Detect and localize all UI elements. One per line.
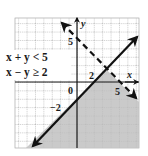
inequality-1-label: x + y < 5: [6, 51, 48, 64]
x-axis-label: x: [126, 69, 132, 80]
x-tick-2: 2: [89, 70, 94, 81]
y-axis-label: y: [80, 18, 86, 29]
x-tick-5: 5: [115, 86, 120, 97]
y-tick-5: 5: [68, 36, 73, 47]
inequality-2-label: x − y ≥ 2: [6, 66, 48, 79]
origin-label: 0: [68, 85, 73, 96]
inequality-graph: x + y < 5 x − y ≥ 2 y x 5 2 0 −2 5: [0, 0, 148, 156]
y-tick-neg2: −2: [50, 102, 61, 113]
